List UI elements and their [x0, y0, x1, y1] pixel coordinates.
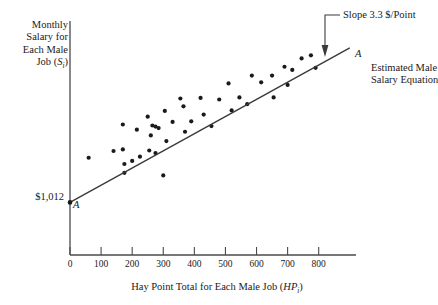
scatter-point — [130, 159, 134, 163]
scatter-point — [121, 122, 125, 126]
x-axis-tick-label: 200 — [117, 259, 147, 269]
y-axis-title-line: Each Male — [6, 44, 68, 56]
scatter-point — [198, 96, 202, 100]
y-intercept-label: $1,012 — [16, 191, 64, 203]
scatter-point — [147, 148, 151, 152]
scatter-point — [189, 119, 193, 123]
scatter-point — [250, 74, 254, 78]
x-axis-tick-label: 600 — [242, 259, 272, 269]
scatter-point — [299, 56, 303, 60]
scatter-point — [226, 81, 230, 85]
scatter-point — [282, 65, 286, 69]
scatter-point — [270, 74, 274, 78]
scatter-point — [156, 126, 160, 130]
scatter-point — [122, 162, 126, 166]
caption-line: Salary Equation — [371, 74, 438, 86]
slope-leader-line — [322, 15, 340, 57]
scatter-point — [149, 133, 153, 137]
scatter-point — [87, 156, 91, 160]
scatter-points-group — [87, 53, 318, 177]
scatter-point — [178, 96, 182, 100]
x-axis-tick-label: 700 — [273, 259, 303, 269]
scatter-point — [161, 173, 165, 177]
regression-line-caption: Estimated MaleSalary Equation — [371, 62, 438, 87]
scatter-point — [272, 95, 276, 99]
y-axis-title-line: Monthly — [6, 19, 68, 31]
scatter-point — [290, 68, 294, 72]
scatter-point — [170, 120, 174, 124]
axes-group — [70, 21, 356, 255]
scatter-point — [163, 109, 167, 113]
slope-annotation-label: Slope 3.3 $/Point — [343, 9, 416, 21]
y-axis-title: MonthlySalary forEach MaleJob (Si) — [6, 19, 68, 71]
scatter-point — [181, 104, 185, 108]
scatter-point — [259, 80, 263, 84]
y-axis-title-line: Job (Si) — [6, 56, 68, 71]
x-axis-tick-label: 800 — [304, 259, 334, 269]
scatter-plot-figure: MonthlySalary forEach MaleJob (Si) $1,01… — [0, 0, 438, 305]
intercept-point — [68, 200, 73, 205]
scatter-point — [146, 115, 150, 119]
x-axis-ticks — [70, 247, 319, 255]
scatter-point — [138, 155, 142, 159]
caption-line: Estimated Male — [371, 62, 438, 74]
y-axis-title-line: Salary for — [6, 31, 68, 43]
regression-line — [70, 48, 350, 202]
x-axis-tick-label: 400 — [179, 259, 209, 269]
scatter-point — [183, 130, 187, 134]
x-axis-tick-label: 0 — [55, 259, 85, 269]
scatter-point — [202, 113, 206, 117]
scatter-point — [111, 149, 115, 153]
x-axis-tick-label: 500 — [210, 259, 240, 269]
x-axis-tick-label: 100 — [86, 259, 116, 269]
scatter-point — [309, 53, 313, 57]
scatter-point — [237, 95, 241, 99]
x-axis-tick-label: 300 — [148, 259, 178, 269]
scatter-point — [135, 128, 139, 132]
x-axis-title: Hay Point Total for Each Male Job (HPi) — [72, 281, 362, 296]
scatter-point — [164, 139, 168, 143]
scatter-point — [217, 97, 221, 101]
line-marker-a-origin: A — [73, 199, 79, 211]
scatter-point — [121, 147, 125, 151]
line-marker-a-end: A — [355, 48, 361, 60]
